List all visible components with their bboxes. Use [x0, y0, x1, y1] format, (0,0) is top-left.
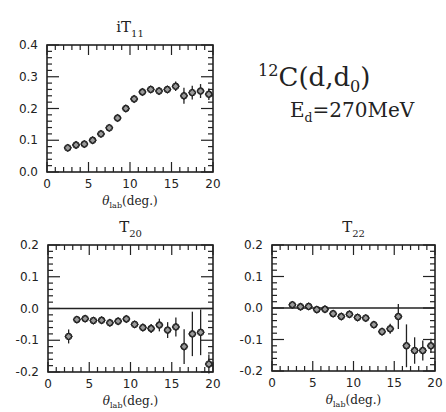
reaction-mass-number: 12 — [258, 61, 279, 80]
data-point — [379, 328, 386, 336]
y-tick-label: 0.2 — [20, 238, 39, 252]
y-tick-label: 0.0 — [244, 301, 263, 315]
data-point — [189, 312, 196, 356]
data-point — [73, 316, 80, 323]
data-point — [428, 339, 435, 353]
data-point — [411, 337, 418, 363]
x-tick-label: 0 — [43, 177, 51, 191]
data-point — [370, 321, 377, 328]
x-tick-label: 5 — [85, 177, 93, 191]
data-point — [330, 310, 337, 317]
data-point — [90, 317, 97, 324]
energy-main: E — [290, 98, 305, 122]
data-point — [139, 89, 146, 96]
x-tick-label: 10 — [122, 177, 137, 191]
data-point — [419, 340, 426, 360]
data-point — [106, 319, 113, 326]
plot-t20: 05101520-0.2-0.10.00.10.2T20θlab(deg.) — [16, 218, 221, 410]
data-point — [115, 318, 122, 325]
data-point — [82, 315, 89, 322]
data-point — [172, 82, 179, 92]
y-tick-label: -0.2 — [240, 364, 263, 378]
x-tick-label: 20 — [205, 377, 220, 391]
plot-title: iT11 — [116, 18, 144, 39]
data-point — [131, 96, 138, 103]
data-point — [89, 137, 96, 144]
data-point — [114, 115, 121, 122]
y-tick-label: -0.1 — [16, 333, 39, 347]
data-point — [64, 144, 71, 151]
data-point — [181, 329, 188, 364]
data-point — [98, 317, 105, 324]
plot-it11: 051015200.00.10.20.30.4iT11θlab(deg.) — [19, 18, 221, 210]
x-tick-label: 15 — [387, 376, 402, 390]
data-point — [122, 105, 129, 112]
data-point — [387, 324, 394, 334]
x-tick-label: 20 — [205, 177, 220, 191]
x-tick-label: 15 — [164, 177, 179, 191]
y-tick-label: 0.3 — [19, 70, 38, 84]
data-point — [164, 322, 171, 338]
y-tick-label: 0.2 — [244, 238, 263, 252]
data-point — [322, 306, 329, 313]
data-point — [289, 301, 296, 308]
y-tick-label: -0.1 — [240, 333, 263, 347]
energy-value: =270MeV — [313, 98, 415, 122]
plot-title: T22 — [342, 218, 365, 239]
y-tick-label: 0.1 — [20, 270, 39, 284]
data-point — [197, 84, 204, 98]
data-point — [156, 319, 163, 332]
x-tick-label: 20 — [427, 376, 442, 390]
data-point — [172, 317, 179, 336]
x-tick-label: 5 — [309, 376, 317, 390]
y-tick-label: 0.4 — [19, 38, 38, 52]
data-point — [346, 311, 353, 318]
y-tick-label: -0.2 — [16, 365, 39, 379]
data-point — [98, 131, 105, 138]
data-point — [131, 321, 138, 328]
data-point — [106, 124, 113, 131]
x-tick-label: 0 — [268, 376, 276, 390]
data-point — [362, 315, 369, 322]
reaction-sub: 0 — [350, 77, 360, 96]
data-point — [181, 88, 188, 104]
plot-title: T20 — [119, 218, 142, 239]
data-point — [123, 316, 130, 323]
reaction-main: C(d,d — [279, 62, 351, 92]
data-point — [73, 142, 80, 149]
data-point — [305, 303, 312, 310]
x-axis-label: θlab(deg.) — [103, 394, 158, 410]
data-point — [403, 324, 410, 367]
data-point — [205, 355, 212, 374]
y-tick-label: 0.0 — [20, 302, 39, 316]
plots-canvas: 051015200.00.10.20.30.4iT11θlab(deg.) 05… — [0, 0, 446, 412]
data-point — [205, 88, 212, 99]
data-point — [354, 314, 361, 321]
data-point — [338, 313, 345, 320]
data-point — [147, 86, 154, 93]
data-point — [65, 329, 72, 343]
data-point — [197, 309, 204, 355]
plot-t22: 05101520-0.2-0.10.00.10.2T22θlab(deg.) — [240, 218, 443, 409]
data-point — [189, 86, 196, 100]
x-tick-label: 15 — [164, 377, 179, 391]
data-point — [156, 88, 163, 95]
data-point — [313, 306, 320, 313]
y-tick-label: 0.2 — [19, 102, 38, 116]
energy-label: Ed=270MeV — [290, 98, 414, 130]
y-tick-label: 0.1 — [19, 133, 38, 147]
x-axis-label: θlab(deg.) — [102, 194, 157, 210]
x-axis-label: θlab(deg.) — [326, 393, 381, 409]
data-point — [139, 324, 146, 332]
energy-sub: d — [305, 110, 313, 125]
reaction-end: ) — [360, 62, 370, 92]
data-point — [164, 86, 171, 93]
data-point — [81, 141, 88, 148]
x-tick-label: 5 — [85, 377, 93, 391]
data-point — [297, 303, 304, 310]
x-tick-label: 0 — [44, 377, 52, 391]
y-tick-label: 0.0 — [19, 165, 38, 179]
x-tick-label: 10 — [123, 377, 138, 391]
x-tick-label: 10 — [346, 376, 361, 390]
y-tick-label: 0.1 — [244, 270, 263, 284]
